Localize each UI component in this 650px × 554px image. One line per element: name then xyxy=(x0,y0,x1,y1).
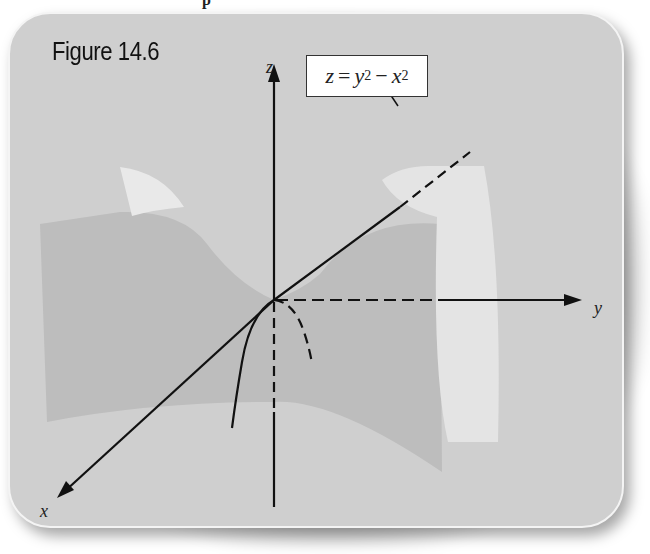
surface-left-flap xyxy=(120,167,184,216)
y-axis-label: y xyxy=(594,298,602,319)
eq-equals: = xyxy=(338,63,350,89)
equation-label: z = y2 − x2 xyxy=(306,55,428,97)
y-axis-arrowhead xyxy=(564,294,582,306)
page-top-fragment: p xyxy=(0,0,650,12)
x-axis-arrowhead xyxy=(57,481,74,498)
eq-x-exponent: 2 xyxy=(401,68,408,84)
figure-card: Figure 14.6 z = y2 − x2 xyxy=(8,12,624,528)
eq-y: y xyxy=(355,63,365,89)
cut-off-text: p xyxy=(202,0,211,9)
eq-x: x xyxy=(392,63,402,89)
eq-y-exponent: 2 xyxy=(364,68,371,84)
z-axis-label: z xyxy=(266,57,273,78)
x-axis-label: x xyxy=(40,501,48,522)
eq-minus: − xyxy=(375,63,387,89)
eq-lhs: z xyxy=(326,63,335,89)
